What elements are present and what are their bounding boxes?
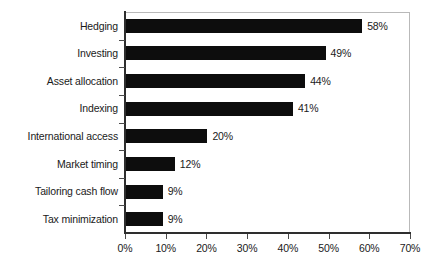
bar-row: Hedging58% [0,12,434,40]
bar [126,129,207,143]
y-axis-tick [119,150,125,151]
x-axis-tick-label: 50% [307,243,351,254]
bar-value-label: 58% [367,21,388,32]
x-axis-tick [410,234,411,239]
bar-row: Asset allocation44% [0,67,434,95]
y-axis-tick [119,67,125,68]
x-axis-tick-label: 60% [347,243,391,254]
x-axis-tick-label: 10% [144,243,188,254]
category-label: Asset allocation [0,76,118,87]
bar-value-label: 41% [298,103,319,114]
bar-with-label: 41% [126,102,319,116]
category-label: Hedging [0,21,118,32]
bar [126,46,326,60]
bar [126,185,163,199]
x-axis-tick [247,234,248,239]
y-axis-tick [119,95,125,96]
y-axis-tick [119,40,125,41]
bar-value-label: 12% [180,159,201,170]
category-label: Investing [0,48,118,59]
bar [126,74,305,88]
bar-value-label: 44% [310,76,331,87]
category-label: Indexing [0,103,118,114]
x-axis-tick [125,234,126,239]
bar-row: Investing49% [0,40,434,68]
bar-with-label: 44% [126,74,331,88]
bar [126,19,362,33]
y-axis-tick [119,178,125,179]
x-axis-tick [329,234,330,239]
x-axis-tick [288,234,289,239]
x-axis-tick-label: 0% [103,243,147,254]
x-axis-tick-label: 40% [266,243,310,254]
bar-rows: Hedging58%Investing49%Asset allocation44… [0,12,434,233]
x-axis-tick-label: 20% [184,243,228,254]
bar [126,157,175,171]
bar-with-label: 12% [126,157,200,171]
x-axis-tick [369,234,370,239]
bar-row: International access20% [0,123,434,151]
bar-row: Market timing12% [0,150,434,178]
y-axis-tick [119,123,125,124]
bar-value-label: 9% [168,214,183,225]
bar-with-label: 9% [126,185,183,199]
bar [126,102,293,116]
bar-with-label: 49% [126,46,351,60]
bar-with-label: 9% [126,212,183,226]
bar-value-label: 20% [212,131,233,142]
bar-value-label: 9% [168,186,183,197]
bar-chart: Hedging58%Investing49%Asset allocation44… [0,0,434,263]
bar-row: Tax minimization9% [0,205,434,233]
x-axis-tick-label: 70% [388,243,432,254]
category-label: Tailoring cash flow [0,186,118,197]
category-label: International access [0,131,118,142]
x-axis-tick-label: 30% [225,243,269,254]
bar [126,212,163,226]
bar-with-label: 20% [126,129,233,143]
x-axis-tick [206,234,207,239]
bar-row: Tailoring cash flow9% [0,178,434,206]
category-label: Market timing [0,159,118,170]
bar-row: Indexing41% [0,95,434,123]
y-axis-tick [119,205,125,206]
x-axis-tick [166,234,167,239]
bar-value-label: 49% [331,48,352,59]
bar-with-label: 58% [126,19,388,33]
category-label: Tax minimization [0,214,118,225]
